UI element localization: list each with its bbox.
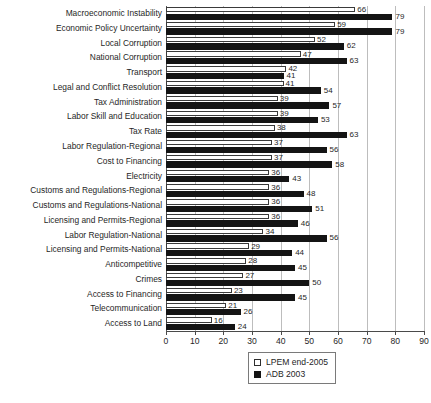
x-tick-label-80: 80 xyxy=(391,336,401,346)
bar-adb xyxy=(166,206,312,212)
bar-lpem xyxy=(166,317,212,322)
x-tick-90 xyxy=(424,331,425,335)
legend-item-adb: ADB 2003 xyxy=(254,368,328,380)
category-label: Transport xyxy=(126,65,162,80)
bar-value-adb: 26 xyxy=(244,308,253,316)
category-label: Tax Rate xyxy=(129,124,162,139)
bar-adb xyxy=(166,117,318,123)
category-label: Labor Regulation-Regional xyxy=(62,139,162,154)
bar-value-lpem: 47 xyxy=(303,51,312,59)
bar-lpem xyxy=(166,170,269,175)
bar-lpem xyxy=(166,303,226,308)
bar-adb xyxy=(166,28,392,34)
bar-lpem xyxy=(166,199,269,204)
chart-row: Licensing and Permits-Regional3646 xyxy=(166,213,424,228)
legend-swatch-filled-square-icon xyxy=(254,371,261,378)
legend-swatch-hollow-square-icon xyxy=(254,359,261,366)
chart-row: Economic Policy Uncertainty5979 xyxy=(166,21,424,36)
x-tick-label-20: 20 xyxy=(219,336,229,346)
bar-lpem xyxy=(166,22,335,27)
category-label: Licensing and Permits-Regional xyxy=(44,213,162,228)
chart-row: Electricity3643 xyxy=(166,169,424,184)
bar-value-lpem: 39 xyxy=(280,110,289,118)
legend-label-lpem: LPEM end-2005 xyxy=(266,357,328,367)
bar-adb xyxy=(166,265,295,271)
category-label: Customs and Regulations-National xyxy=(33,198,162,213)
bar-value-adb: 51 xyxy=(315,205,324,213)
bar-lpem xyxy=(166,7,355,12)
category-label: Telecommunication xyxy=(90,301,162,316)
bar-adb xyxy=(166,250,292,256)
bar-adb xyxy=(166,191,304,197)
bar-lpem xyxy=(166,258,246,263)
gridline-90 xyxy=(424,6,425,331)
chart-row: Cost to Financing3758 xyxy=(166,154,424,169)
bar-value-adb: 45 xyxy=(298,264,307,272)
chart-row: Tax Administration3957 xyxy=(166,95,424,110)
legend-label-adb: ADB 2003 xyxy=(266,369,305,379)
chart-row: Legal and Conflict Resolution4154 xyxy=(166,80,424,95)
x-tick-label-90: 90 xyxy=(419,336,429,346)
x-tick-label-70: 70 xyxy=(362,336,372,346)
bar-value-adb: 48 xyxy=(307,190,316,198)
chart-row: Local Corruption5262 xyxy=(166,36,424,51)
bar-value-adb: 63 xyxy=(350,131,359,139)
bar-lpem xyxy=(166,229,263,234)
bar-value-adb: 45 xyxy=(298,294,307,302)
bar-value-lpem: 41 xyxy=(286,80,295,88)
bar-value-adb: 44 xyxy=(295,249,304,257)
bar-lpem xyxy=(166,155,272,160)
bar-adb xyxy=(166,176,289,182)
x-tick-50 xyxy=(309,331,310,335)
category-label: Customs and Regulations-Regional xyxy=(30,183,162,198)
bar-lpem xyxy=(166,111,278,116)
bar-adb xyxy=(166,58,347,64)
bar-value-adb: 54 xyxy=(324,87,333,95)
bar-value-lpem: 29 xyxy=(251,243,260,251)
bar-adb xyxy=(166,235,327,241)
chart-legend: LPEM end-2005 ADB 2003 xyxy=(248,352,336,384)
x-tick-label-60: 60 xyxy=(333,336,343,346)
category-label: Access to Land xyxy=(105,316,162,331)
bar-adb xyxy=(166,73,284,79)
x-tick-40 xyxy=(281,331,282,335)
bar-value-adb: 46 xyxy=(301,220,310,228)
bar-adb xyxy=(166,161,332,167)
x-tick-label-40: 40 xyxy=(276,336,286,346)
chart-row: Anticompetitive2845 xyxy=(166,257,424,272)
bar-chart: Macroeconomic Instability6679Economic Po… xyxy=(0,0,431,403)
chart-row: Telecommunication2126 xyxy=(166,301,424,316)
bar-value-lpem: 16 xyxy=(214,317,223,325)
bar-adb xyxy=(166,147,327,153)
chart-row: Labor Skill and Education3953 xyxy=(166,109,424,124)
x-tick-80 xyxy=(395,331,396,335)
x-tick-60 xyxy=(338,331,339,335)
category-label: Local Corruption xyxy=(101,36,162,51)
bar-adb xyxy=(166,220,298,226)
bar-value-lpem: 66 xyxy=(357,6,366,14)
category-label: National Corruption xyxy=(90,50,162,65)
bar-adb xyxy=(166,309,241,315)
bar-value-lpem: 52 xyxy=(317,36,326,44)
bar-lpem xyxy=(166,96,278,101)
category-label: Legal and Conflict Resolution xyxy=(53,80,162,95)
bar-value-lpem: 36 xyxy=(271,198,280,206)
bar-value-adb: 58 xyxy=(335,161,344,169)
x-tick-30 xyxy=(252,331,253,335)
category-label: Licensing and Permits-National xyxy=(46,242,162,257)
bar-value-adb: 79 xyxy=(395,13,404,21)
bar-value-adb: 79 xyxy=(395,28,404,36)
bar-adb xyxy=(166,43,344,49)
chart-row: Access to Financing2345 xyxy=(166,287,424,302)
bar-adb xyxy=(166,132,347,138)
bar-value-lpem: 37 xyxy=(274,154,283,162)
bar-adb xyxy=(166,102,329,108)
x-tick-20 xyxy=(223,331,224,335)
bar-adb xyxy=(166,324,235,330)
category-label: Macroeconomic Instability xyxy=(66,6,162,21)
bar-lpem xyxy=(166,37,315,42)
x-tick-10 xyxy=(195,331,196,335)
chart-row: Labor Regulation-National3456 xyxy=(166,228,424,243)
category-label: Cost to Financing xyxy=(97,154,162,169)
bar-value-lpem: 39 xyxy=(280,95,289,103)
